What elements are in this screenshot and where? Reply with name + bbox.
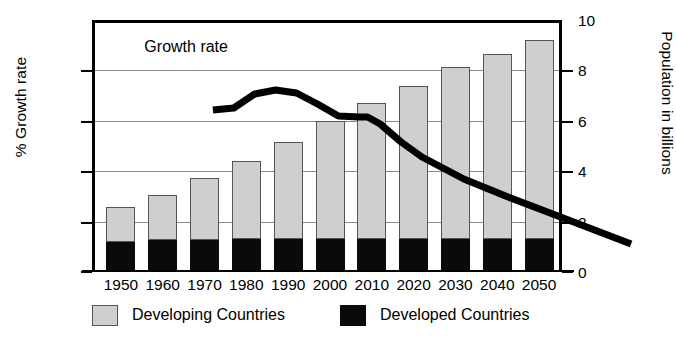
bar-segment-developed: [148, 240, 177, 270]
annotation-growth-rate: Growth rate: [144, 38, 228, 56]
y-tickmark-left-1-5: [81, 121, 92, 123]
bar-segment-developed: [106, 242, 135, 270]
plot-area: [92, 20, 562, 272]
y-axis-label-right: Population in billions: [658, 13, 676, 193]
legend-label-developing: Developing Countries: [132, 306, 285, 324]
y-tickmark-left-1-0: [81, 171, 92, 173]
growth-rate-line: [184, 40, 654, 292]
y-tickmark-left-2-0: [81, 70, 92, 72]
axis-frame-bottom: [82, 270, 574, 272]
bar-segment-developing: [148, 195, 177, 240]
bar-1960: [148, 195, 177, 270]
y-tick-right-10: 10: [578, 12, 618, 30]
y-axis-label-left: % Growth rate: [12, 22, 30, 192]
bar-1950: [106, 207, 135, 270]
axis-frame-top: [92, 20, 562, 23]
legend-swatch-developing: [92, 305, 118, 326]
legend-swatch-developed: [340, 305, 366, 326]
bar-segment-developing: [106, 207, 135, 242]
x-tick-2050: 2050: [509, 276, 569, 294]
y-tickmark-left-0-5: [81, 222, 92, 224]
axis-frame-left: [92, 20, 95, 272]
legend-label-developed: Developed Countries: [380, 306, 529, 324]
